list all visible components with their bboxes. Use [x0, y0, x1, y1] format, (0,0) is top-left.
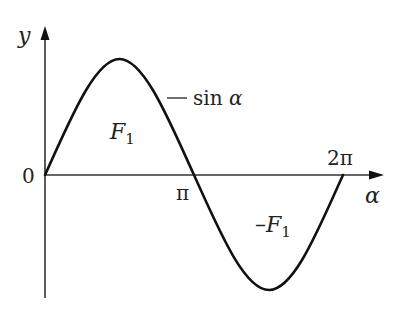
origin-label: 0	[22, 164, 35, 188]
x-axis	[45, 171, 384, 180]
y-axis-arrow-icon	[41, 26, 50, 40]
y-axis-label: y	[17, 23, 31, 48]
tick-label-2pi: 2π	[327, 146, 353, 170]
x-axis-label: α	[365, 183, 380, 208]
region-label-negative: –F1	[255, 212, 291, 241]
sine-area-diagram: sin α y α 0 π 2π F1 –F1	[0, 0, 403, 318]
curve-label: sin α	[193, 86, 243, 110]
tick-label-pi: π	[176, 181, 189, 205]
region-label-positive: F1	[109, 119, 135, 148]
x-axis-arrow-icon	[369, 171, 384, 180]
y-axis	[41, 26, 50, 298]
